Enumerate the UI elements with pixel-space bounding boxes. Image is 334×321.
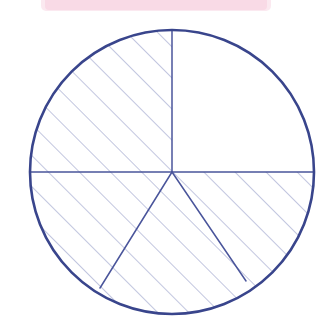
pink-highlighter-stroke: [41, 0, 271, 11]
circle-figure: [0, 0, 334, 321]
diagram-canvas: Circle sector diagram with diagonal hatc…: [0, 0, 334, 321]
